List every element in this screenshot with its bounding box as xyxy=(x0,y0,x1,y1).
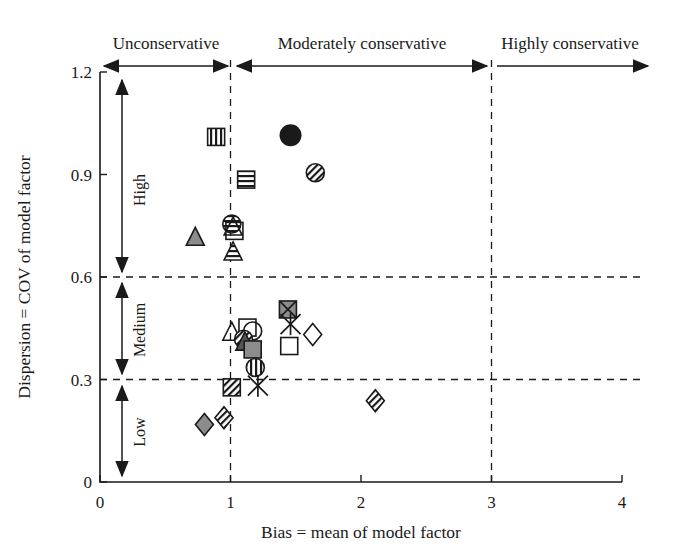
y-tick-label-0.6: 0.6 xyxy=(71,268,92,287)
scatter-plot-svg: Unconservative Moderately conservative H… xyxy=(0,0,697,560)
data-point-triangle-horizontal-stripes xyxy=(224,242,242,260)
data-point-square-open xyxy=(281,338,298,355)
figure-canvas: Unconservative Moderately conservative H… xyxy=(0,0,697,560)
data-point-layer xyxy=(186,124,384,435)
y-tick-label-0.9: 0.9 xyxy=(71,166,92,185)
zone-label-medium: Medium xyxy=(131,302,148,357)
data-point-diamond-open xyxy=(304,323,322,345)
zone-label-highly-conservative: Highly conservative xyxy=(501,34,638,53)
data-point-x-cross xyxy=(281,313,301,335)
x-tick-label-0: 0 xyxy=(96,493,105,512)
data-point-circle-vertical-stripes xyxy=(246,359,264,377)
side-zone-band: High Medium Low xyxy=(122,80,149,476)
data-point-x-cross xyxy=(248,375,268,397)
data-point-diamond-gray-filled xyxy=(195,414,213,436)
data-point-diamond-hatch xyxy=(366,390,384,412)
zone-label-moderately-conservative: Moderately conservative xyxy=(278,34,447,53)
x-tick-label-3: 3 xyxy=(487,493,496,512)
y-axis-title: Dispersion = COV of model factor xyxy=(14,155,34,398)
data-point-triangle-gray-filled xyxy=(186,227,204,245)
data-point-square-gray-filled xyxy=(244,341,261,358)
clipped-caption xyxy=(300,0,690,8)
x-tick-label-4: 4 xyxy=(618,493,627,512)
data-point-square-vertical-stripes xyxy=(208,128,225,145)
reference-lines xyxy=(100,60,645,482)
y-tick-label-0: 0 xyxy=(84,473,93,492)
y-tick-label-0.3: 0.3 xyxy=(71,371,92,390)
data-point-circle-filled xyxy=(280,124,302,146)
tick-labels: 0 0.3 0.6 0.9 1.2 0 1 2 3 4 xyxy=(71,63,627,512)
zone-label-low: Low xyxy=(131,417,148,447)
top-zone-band: Unconservative Moderately conservative H… xyxy=(104,34,648,66)
x-tick-label-1: 1 xyxy=(226,493,235,512)
zone-label-unconservative: Unconservative xyxy=(113,34,220,53)
x-axis-title: Bias = mean of model factor xyxy=(261,522,461,542)
data-point-square-diagonal-hatch xyxy=(223,379,240,396)
data-point-circle-diagonal-hatch xyxy=(306,164,324,182)
y-tick-label-1.2: 1.2 xyxy=(71,63,92,82)
x-tick-label-2: 2 xyxy=(357,493,366,512)
data-point-square-horizontal-stripes xyxy=(238,171,255,188)
zone-label-high: High xyxy=(131,174,149,206)
